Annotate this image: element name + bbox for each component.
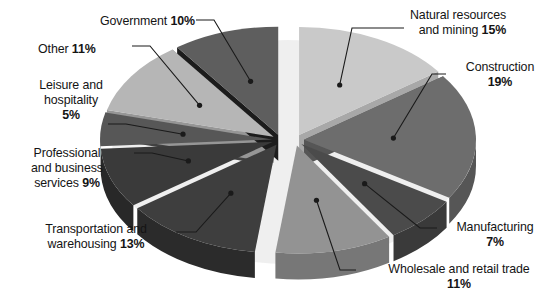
label-professional-and-business-services: Professional and business services 9% (4, 146, 130, 192)
leader-dot-government (248, 79, 253, 84)
leader-dot-wholesale-and-retail-trade (314, 198, 319, 203)
label-natural-resources-and-mining: Natural resources and mining 15% (410, 8, 506, 38)
label-natural-value: 15% (482, 23, 507, 37)
label-professional-line2: and business (4, 161, 130, 176)
leader-dot-other (197, 103, 202, 108)
label-construction: Construction 19% (452, 60, 548, 90)
label-government-value: 10% (171, 14, 196, 28)
label-government-text: Government (100, 14, 171, 28)
leader-dot-professional-and-business-services (186, 158, 191, 163)
label-other-text: Other (38, 42, 72, 56)
label-natural-line1: Natural resources (410, 8, 506, 23)
label-manufacturing: Manufacturing 7% (443, 220, 547, 250)
leader-dot-natural-resources-and-mining (337, 82, 342, 87)
pie-chart-figure: Government 10% Other 11% Leisure and hos… (0, 0, 552, 299)
label-other: Other 11% (38, 42, 96, 57)
label-wholesale-line1: Wholesale and retail trade (366, 262, 552, 277)
label-natural-line2: and mining (419, 23, 482, 37)
label-leisure-line2: hospitality (12, 93, 130, 108)
label-transportation-and-warehousing: Transportation and warehousing 13% (20, 222, 172, 252)
label-transportation-line1: Transportation and (20, 222, 172, 237)
label-construction-value: 19% (488, 75, 513, 89)
label-manufacturing-line1: Manufacturing (443, 220, 547, 235)
label-other-value: 11% (72, 42, 96, 56)
leader-dot-construction (391, 135, 396, 140)
leader-dot-manufacturing (362, 181, 367, 186)
label-professional-value: 9% (82, 176, 100, 190)
label-transportation-value: 13% (120, 237, 145, 251)
leader-dot-transportation-and-warehousing (228, 191, 233, 196)
label-professional-line1: Professional (4, 146, 130, 161)
label-leisure-line1: Leisure and (12, 78, 130, 93)
leader-dot-leisure-and-hospitality (180, 132, 185, 137)
label-professional-line3: services (34, 176, 82, 190)
label-construction-line1: Construction (452, 60, 548, 75)
label-wholesale-and-retail-trade: Wholesale and retail trade 11% (366, 262, 552, 292)
label-leisure-value: 5% (62, 108, 80, 122)
label-transportation-line2: warehousing (47, 237, 120, 251)
label-manufacturing-value: 7% (486, 235, 504, 249)
label-leisure-and-hospitality: Leisure and hospitality 5% (12, 78, 130, 124)
label-government: Government 10% (100, 14, 195, 29)
label-wholesale-value: 11% (447, 277, 471, 291)
